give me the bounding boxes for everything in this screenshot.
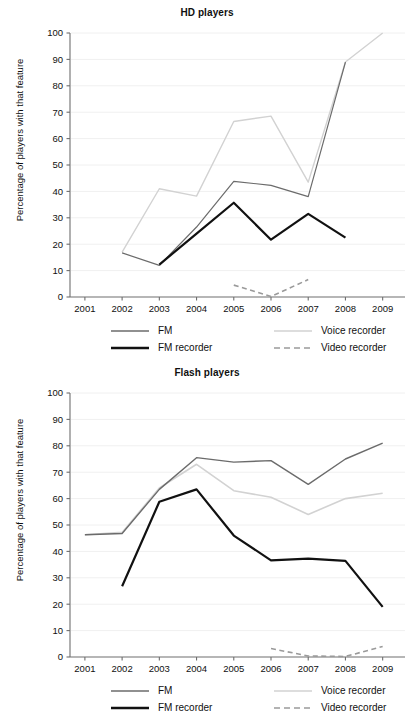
svg-text:2007: 2007 — [298, 663, 319, 674]
svg-text:2001: 2001 — [74, 303, 95, 314]
legend-swatch-voice-recorder — [273, 326, 313, 336]
svg-text:2009: 2009 — [372, 663, 393, 674]
legend-swatch-fm — [110, 326, 150, 336]
plot-area: 0102030405060708090100200120022003200420… — [0, 0, 414, 330]
svg-text:2002: 2002 — [112, 663, 133, 674]
svg-text:2002: 2002 — [112, 303, 133, 314]
plot-area: 0102030405060708090100200120022003200420… — [0, 360, 414, 690]
svg-text:80: 80 — [52, 80, 63, 91]
legend-label-voice-recorder: Voice recorder — [321, 685, 385, 696]
figure-page: HD players Percentage of players with th… — [0, 0, 414, 721]
svg-text:20: 20 — [52, 599, 63, 610]
legend-swatch-voice-recorder — [273, 686, 313, 696]
legend-swatch-video-recorder — [273, 343, 313, 353]
svg-text:50: 50 — [52, 519, 63, 530]
svg-text:2006: 2006 — [260, 663, 281, 674]
legend-item-fm-recorder: FM recorder — [110, 342, 251, 353]
legend-item-voice-recorder: Voice recorder — [273, 685, 414, 696]
legend-row: FM recorder Video recorder — [0, 339, 414, 356]
svg-text:2003: 2003 — [149, 303, 170, 314]
legend-swatch-fm — [110, 686, 150, 696]
svg-text:2003: 2003 — [149, 663, 170, 674]
svg-text:2007: 2007 — [298, 303, 319, 314]
chart-legend: FM Voice recorder FM recorder — [0, 322, 414, 356]
chart-legend: FM Voice recorder FM recorder — [0, 682, 414, 716]
legend-label-video-recorder: Video recorder — [321, 342, 386, 353]
legend-swatch-fm-recorder — [110, 343, 150, 353]
svg-text:2006: 2006 — [260, 303, 281, 314]
svg-text:10: 10 — [52, 265, 63, 276]
svg-text:30: 30 — [52, 572, 63, 583]
legend-item-fm: FM — [110, 325, 251, 336]
svg-text:2005: 2005 — [223, 303, 244, 314]
svg-text:100: 100 — [47, 387, 63, 398]
svg-text:80: 80 — [52, 440, 63, 451]
svg-text:70: 70 — [52, 467, 63, 478]
legend-item-voice-recorder: Voice recorder — [273, 325, 414, 336]
legend-item-fm-recorder: FM recorder — [110, 702, 251, 713]
svg-text:90: 90 — [52, 54, 63, 65]
legend-row: FM Voice recorder — [0, 322, 414, 339]
svg-text:100: 100 — [47, 27, 63, 38]
svg-text:30: 30 — [52, 212, 63, 223]
legend-swatch-fm-recorder — [110, 703, 150, 713]
svg-text:2008: 2008 — [335, 303, 356, 314]
svg-text:70: 70 — [52, 107, 63, 118]
svg-text:0: 0 — [58, 291, 63, 302]
svg-text:60: 60 — [52, 133, 63, 144]
legend-item-fm: FM — [110, 685, 251, 696]
legend-row: FM Voice recorder — [0, 682, 414, 699]
legend-label-fm-recorder: FM recorder — [158, 342, 212, 353]
chart-hd-players: HD players Percentage of players with th… — [0, 0, 414, 360]
legend-swatch-video-recorder — [273, 703, 313, 713]
svg-text:0: 0 — [58, 651, 63, 662]
svg-text:40: 40 — [52, 546, 63, 557]
legend-item-video-recorder: Video recorder — [273, 342, 414, 353]
legend-label-fm: FM — [158, 685, 172, 696]
line-chart-svg: 0102030405060708090100200120022003200420… — [0, 360, 414, 690]
svg-text:60: 60 — [52, 493, 63, 504]
svg-text:90: 90 — [52, 414, 63, 425]
legend-label-fm-recorder: FM recorder — [158, 702, 212, 713]
legend-label-video-recorder: Video recorder — [321, 702, 386, 713]
svg-text:2004: 2004 — [186, 663, 207, 674]
line-chart-svg: 0102030405060708090100200120022003200420… — [0, 0, 414, 330]
legend-row: FM recorder Video recorder — [0, 699, 414, 716]
svg-text:2001: 2001 — [74, 663, 95, 674]
svg-text:2008: 2008 — [335, 663, 356, 674]
svg-text:50: 50 — [52, 159, 63, 170]
svg-text:20: 20 — [52, 239, 63, 250]
legend-item-video-recorder: Video recorder — [273, 702, 414, 713]
svg-text:10: 10 — [52, 625, 63, 636]
chart-flash-players: Flash players Percentage of players with… — [0, 360, 414, 721]
legend-label-voice-recorder: Voice recorder — [321, 325, 385, 336]
svg-text:2005: 2005 — [223, 663, 244, 674]
svg-text:2004: 2004 — [186, 303, 207, 314]
svg-text:40: 40 — [52, 186, 63, 197]
svg-text:2009: 2009 — [372, 303, 393, 314]
legend-label-fm: FM — [158, 325, 172, 336]
